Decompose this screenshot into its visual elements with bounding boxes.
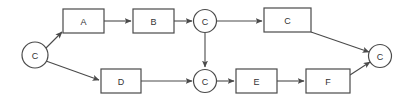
node-mid_bottom[interactable]: C <box>194 70 217 93</box>
node-d[interactable]: D <box>101 69 141 93</box>
node-label: D <box>118 77 125 87</box>
node-b[interactable]: B <box>133 9 174 33</box>
node-mid_top[interactable]: C <box>194 10 217 33</box>
node-label: C <box>284 16 291 26</box>
node-c_box[interactable]: C <box>264 8 311 32</box>
edge-cbox-end <box>311 32 369 52</box>
edge-start-a <box>46 32 62 48</box>
edge-start-d <box>46 61 99 80</box>
node-label: B <box>150 17 156 27</box>
node-label: C <box>377 52 384 62</box>
flowchart-graph: CABCCDCEFC <box>0 0 407 109</box>
diagram-canvas: CABCCDCEFC <box>0 0 407 109</box>
node-e[interactable]: E <box>236 69 277 93</box>
node-label: C <box>32 51 39 61</box>
nodes-layer: CABCCDCEFC <box>22 8 392 93</box>
node-label: A <box>80 17 86 27</box>
node-label: C <box>202 17 209 27</box>
node-label: E <box>253 77 259 87</box>
node-end[interactable]: C <box>369 45 392 68</box>
node-label: F <box>325 77 331 87</box>
edge-f-end <box>350 62 370 75</box>
node-label: C <box>202 77 209 87</box>
node-start[interactable]: C <box>22 42 48 68</box>
node-a[interactable]: A <box>63 9 104 33</box>
node-f[interactable]: F <box>306 69 350 93</box>
